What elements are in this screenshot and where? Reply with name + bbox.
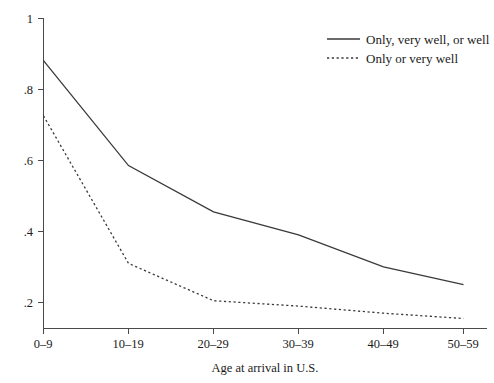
- x-tick-label: 50–59: [447, 337, 478, 351]
- x-tick-labels: 0–9 10–19 20–29 30–39 40–49 50–59: [34, 337, 479, 351]
- legend-label: Only, very well, or well: [366, 32, 490, 47]
- y-tick-label: .8: [24, 83, 33, 97]
- legend: Only, very well, or well Only or very we…: [327, 32, 490, 66]
- x-tick-label: 40–49: [367, 337, 398, 351]
- x-tick-label: 0–9: [34, 337, 53, 351]
- y-tick-label: 1: [27, 12, 33, 26]
- x-axis-title: Age at arrival in U.S.: [212, 361, 319, 375]
- series-line-only-very-well-or-well: [44, 61, 464, 285]
- y-tick-label: .2: [24, 296, 33, 310]
- line-chart: 1 .8 .6 .4 .2 0–9 10–19 20–29 30–39 40–4…: [0, 0, 494, 383]
- y-tick-marks: [38, 19, 44, 303]
- y-tick-label: .4: [24, 225, 34, 239]
- y-tick-label: .6: [24, 154, 33, 168]
- x-tick-label: 30–39: [282, 337, 313, 351]
- series-line-only-or-very-well: [44, 116, 464, 319]
- x-tick-marks: [44, 329, 464, 335]
- x-tick-label: 10–19: [112, 337, 143, 351]
- x-tick-label: 20–29: [197, 337, 228, 351]
- legend-label: Only or very well: [366, 51, 458, 66]
- chart-canvas: 1 .8 .6 .4 .2 0–9 10–19 20–29 30–39 40–4…: [0, 0, 494, 383]
- y-tick-labels: 1 .8 .6 .4 .2: [24, 12, 34, 310]
